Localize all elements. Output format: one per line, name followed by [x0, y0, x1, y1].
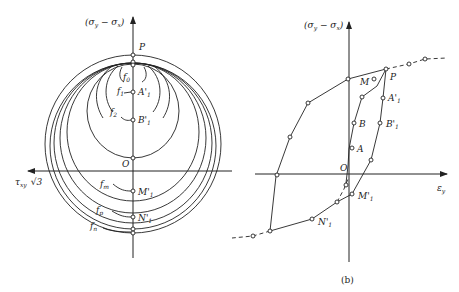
label-P: P	[138, 42, 146, 52]
point-left-bottom	[268, 229, 272, 233]
label-B1-prime: B'1	[137, 115, 151, 126]
reverse-loading-loop	[270, 79, 352, 231]
point-M-lower	[360, 95, 364, 99]
leader-fm	[113, 184, 131, 191]
point-B	[352, 121, 356, 125]
label-fp: fp	[95, 205, 103, 217]
point-O	[131, 156, 135, 160]
label-N1-prime-right: N'1	[317, 217, 332, 228]
label-P-right: P	[389, 72, 397, 82]
left-vertical-axis-label: (σy − σx)	[85, 17, 125, 29]
point-M	[372, 77, 376, 81]
label-A1-prime: A'1	[137, 87, 151, 98]
point-A	[350, 146, 354, 150]
right-vertical-axis-label: (σy − σx)	[304, 20, 344, 32]
right-diagram: (σy − σx) M P A'1 B'1 B A O M'1 N'1 εy (…	[232, 20, 447, 285]
point-lower-mid	[335, 200, 339, 204]
point-left-2	[288, 135, 292, 139]
point-A1-prime	[131, 90, 135, 94]
dashed-extension-upper	[386, 58, 447, 69]
label-f0: f0	[122, 72, 130, 83]
point-P-right	[384, 67, 388, 71]
point-inner-lower	[344, 183, 348, 187]
point-B1-prime	[131, 118, 135, 122]
label-fm: fm	[99, 179, 109, 190]
label-N1-prime: N'1	[137, 213, 152, 224]
label-O-left: O	[122, 159, 130, 169]
label-M1-prime: M'1	[137, 187, 154, 198]
point-left-axis-cross	[275, 173, 279, 177]
point-bottom-1	[131, 227, 135, 231]
point-lower-right	[369, 158, 373, 162]
point-left-1	[306, 101, 310, 105]
point-ext-lower	[251, 234, 255, 238]
label-f1: f1	[116, 86, 124, 97]
arc-f0-right	[142, 67, 146, 82]
point-ext-1	[407, 62, 411, 66]
left-diagram: (σy − σx) P f0 f1 f2 A'1 B'1 O fm M'1 fp…	[15, 17, 232, 258]
point-ext-2	[423, 57, 427, 61]
dashed-inner-lower	[337, 179, 348, 202]
point-N1-prime	[131, 215, 135, 219]
leader-f2	[121, 117, 131, 120]
unloading-path-P-A1-B1-M1	[352, 69, 386, 194]
label-B: B	[358, 119, 366, 129]
point-M1-prime	[131, 189, 135, 193]
arc-f2-right	[154, 66, 170, 118]
point-bottom-2	[131, 231, 135, 235]
point-B1-prime-right	[378, 121, 382, 125]
point-yield-start	[346, 77, 350, 81]
label-f2: f2	[109, 107, 117, 118]
label-B1-prime-right: B'1	[385, 119, 399, 130]
point-top-cluster-2	[131, 63, 135, 67]
label-O-right: O	[340, 163, 348, 173]
figure-canvas: (σy − σx) P f0 f1 f2 A'1 B'1 O fm M'1 fp…	[0, 0, 459, 292]
right-horizontal-axis-label: εy	[437, 183, 446, 195]
point-M1-prime-right	[350, 192, 354, 196]
point-N1-prime-right	[310, 217, 314, 221]
figure-caption-b: (b)	[341, 275, 354, 285]
arc-f1-right	[148, 66, 160, 112]
left-horizontal-axis-label: τxy√3	[15, 177, 43, 189]
label-M1-prime-right: M'1	[357, 191, 374, 202]
label-fn: fn	[89, 221, 97, 232]
point-P	[131, 53, 135, 57]
leader-f1	[124, 92, 131, 93]
point-A1-prime-right	[381, 96, 385, 100]
label-A: A	[356, 144, 364, 154]
label-M: M	[359, 77, 370, 87]
label-A1-prime-right: A'1	[387, 93, 401, 104]
